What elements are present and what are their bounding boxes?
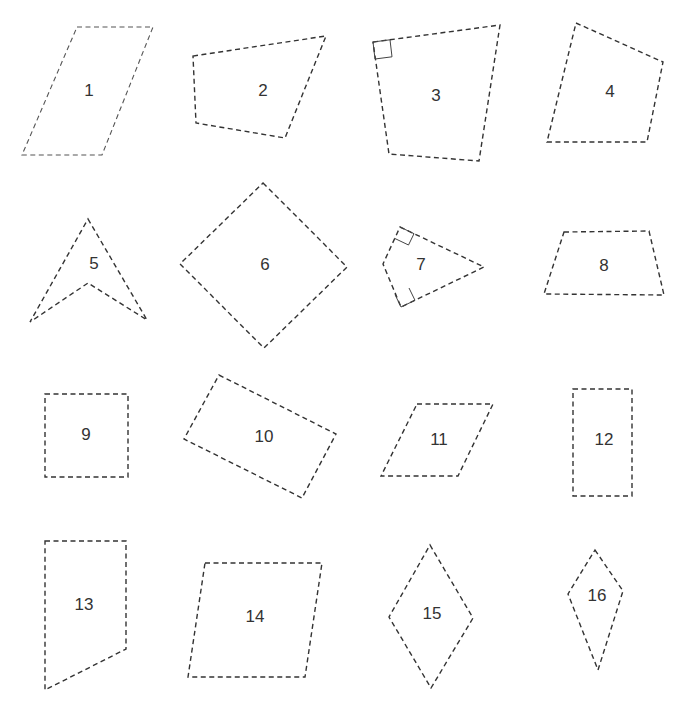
shape-2-label: 2 xyxy=(258,81,267,100)
shape-13-label: 13 xyxy=(75,595,94,614)
shape-15-label: 15 xyxy=(423,604,442,623)
shape-12-label: 12 xyxy=(595,430,614,449)
shapes-diagram: 12345678910111213141516 xyxy=(0,0,687,710)
right-angle-marker-shape-3 xyxy=(373,40,392,59)
shape-7-outline xyxy=(383,227,484,307)
shape-14-label: 14 xyxy=(246,607,265,626)
shape-8-label: 8 xyxy=(599,256,608,275)
shape-6-label: 6 xyxy=(260,255,269,274)
shape-7-label: 7 xyxy=(416,255,425,274)
shapes-layer xyxy=(22,23,664,690)
shape-13-outline xyxy=(45,541,126,690)
right-angle-marker-shape-7-bottom xyxy=(395,288,415,307)
shape-10-label: 10 xyxy=(255,427,274,446)
shape-3-label: 3 xyxy=(431,86,440,105)
shape-1-label: 1 xyxy=(84,81,93,100)
shape-4-label: 4 xyxy=(605,82,614,101)
shape-16-label: 16 xyxy=(588,586,607,605)
shape-9-label: 9 xyxy=(81,425,90,444)
labels-layer: 12345678910111213141516 xyxy=(75,81,615,626)
right-angle-markers xyxy=(373,40,415,307)
shape-16-outline xyxy=(568,550,623,670)
shape-11-label: 11 xyxy=(430,430,448,449)
shape-5-label: 5 xyxy=(89,254,98,273)
